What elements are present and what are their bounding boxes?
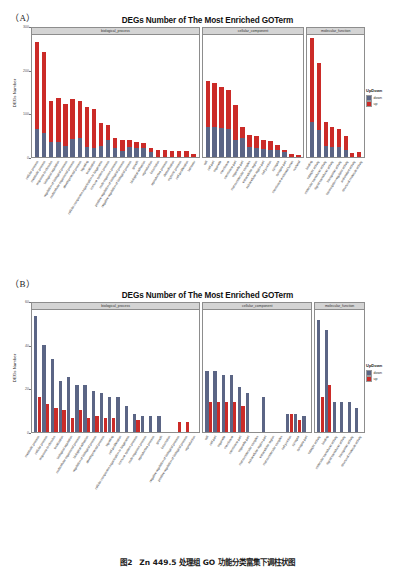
bar-group[interactable] xyxy=(342,35,349,157)
bar-group[interactable] xyxy=(204,35,211,157)
bar-segment-up[interactable] xyxy=(206,81,210,127)
bar-segment-up[interactable] xyxy=(219,87,223,128)
bar-segment-down[interactable] xyxy=(344,150,348,157)
bar-segment-down[interactable] xyxy=(49,142,53,157)
bar-segment-up[interactable] xyxy=(56,98,60,141)
bar-segment-up[interactable] xyxy=(156,150,160,157)
bar-group[interactable] xyxy=(347,310,355,432)
bar-up[interactable] xyxy=(95,416,98,432)
bar-group[interactable] xyxy=(190,310,198,432)
bar-down[interactable] xyxy=(340,402,343,433)
bar-group[interactable] xyxy=(218,35,225,157)
bar-group[interactable] xyxy=(75,310,83,432)
bar-segment-down[interactable] xyxy=(254,148,258,157)
bar-segment-down[interactable] xyxy=(106,140,110,157)
bar-segment-down[interactable] xyxy=(70,139,74,157)
bar-segment-up[interactable] xyxy=(49,101,53,142)
bar-segment-down[interactable] xyxy=(113,148,117,157)
bar-group[interactable] xyxy=(83,310,91,432)
bar-group[interactable] xyxy=(205,310,213,432)
bar-segment-down[interactable] xyxy=(56,142,60,157)
bar-group[interactable] xyxy=(83,35,90,157)
bar-segment-down[interactable] xyxy=(337,147,341,157)
bar-segment-down[interactable] xyxy=(99,146,103,157)
bar-up[interactable] xyxy=(217,402,220,433)
bar-segment-down[interactable] xyxy=(317,130,321,157)
bar-segment-up[interactable] xyxy=(78,101,82,138)
bar-group[interactable] xyxy=(294,310,302,432)
bar-group[interactable] xyxy=(324,310,332,432)
bar-group[interactable] xyxy=(91,310,99,432)
bar-group[interactable] xyxy=(269,310,277,432)
bar-segment-up[interactable] xyxy=(317,63,321,130)
bar-segment-up[interactable] xyxy=(63,104,67,146)
bar-up[interactable] xyxy=(186,422,189,432)
bar-segment-up[interactable] xyxy=(268,141,272,150)
bar-group[interactable] xyxy=(147,35,154,157)
bar-segment-up[interactable] xyxy=(106,125,110,140)
bar-group[interactable] xyxy=(154,35,161,157)
bar-segment-down[interactable] xyxy=(141,148,145,157)
bar-segment-down[interactable] xyxy=(324,146,328,157)
bar-down[interactable] xyxy=(246,393,249,432)
bar-group[interactable] xyxy=(34,310,42,432)
bar-group[interactable] xyxy=(112,35,119,157)
bar-group[interactable] xyxy=(274,35,281,157)
bar-segment-down[interactable] xyxy=(35,129,39,157)
bar-group[interactable] xyxy=(286,310,294,432)
bar-group[interactable] xyxy=(277,310,285,432)
bar-segment-up[interactable] xyxy=(170,151,174,157)
bar-group[interactable] xyxy=(349,35,356,157)
bar-segment-up[interactable] xyxy=(330,127,334,147)
bar-group[interactable] xyxy=(119,35,126,157)
bar-up[interactable] xyxy=(209,402,212,433)
bar-group[interactable] xyxy=(302,310,310,432)
bar-down[interactable] xyxy=(149,416,152,432)
bar-group[interactable] xyxy=(132,310,140,432)
bar-up[interactable] xyxy=(79,410,82,432)
bar-segment-up[interactable] xyxy=(324,122,328,146)
bar-segment-up[interactable] xyxy=(261,140,265,149)
bar-group[interactable] xyxy=(90,35,97,157)
bar-group[interactable] xyxy=(34,35,41,157)
bar-up[interactable] xyxy=(321,397,324,432)
bar-segment-up[interactable] xyxy=(254,136,258,148)
bar-segment-up[interactable] xyxy=(184,151,188,157)
bar-group[interactable] xyxy=(97,35,104,157)
bar-group[interactable] xyxy=(176,35,183,157)
bar-segment-up[interactable] xyxy=(240,127,244,137)
bar-group[interactable] xyxy=(253,35,260,157)
bar-segment-down[interactable] xyxy=(310,122,314,157)
bar-segment-up[interactable] xyxy=(42,52,46,133)
bar-group[interactable] xyxy=(356,35,363,157)
bar-group[interactable] xyxy=(161,35,168,157)
bar-group[interactable] xyxy=(126,35,133,157)
bar-segment-up[interactable] xyxy=(85,107,89,148)
bar-segment-down[interactable] xyxy=(282,152,286,157)
bar-up[interactable] xyxy=(71,418,74,432)
bar-down[interactable] xyxy=(262,397,265,432)
bar-segment-down[interactable] xyxy=(127,147,131,157)
bar-group[interactable] xyxy=(213,310,221,432)
bar-group[interactable] xyxy=(149,310,157,432)
bar-group[interactable] xyxy=(42,310,50,432)
bar-group[interactable] xyxy=(261,310,269,432)
bar-segment-down[interactable] xyxy=(120,151,124,158)
bar-segment-up[interactable] xyxy=(92,109,96,148)
bar-group[interactable] xyxy=(237,310,245,432)
bar-segment-down[interactable] xyxy=(63,146,67,157)
bar-group[interactable] xyxy=(267,35,274,157)
bar-group[interactable] xyxy=(50,310,58,432)
bar-segment-down[interactable] xyxy=(85,147,89,157)
bar-up[interactable] xyxy=(62,410,65,432)
bar-segment-down[interactable] xyxy=(268,150,272,157)
bar-group[interactable] xyxy=(239,35,246,157)
bar-down[interactable] xyxy=(141,416,144,432)
bar-group[interactable] xyxy=(116,310,124,432)
bar-up[interactable] xyxy=(298,420,301,432)
bar-down[interactable] xyxy=(157,416,160,432)
bar-up[interactable] xyxy=(241,406,244,432)
bar-up[interactable] xyxy=(290,414,293,432)
bar-segment-up[interactable] xyxy=(233,105,237,140)
bar-group[interactable] xyxy=(295,35,302,157)
